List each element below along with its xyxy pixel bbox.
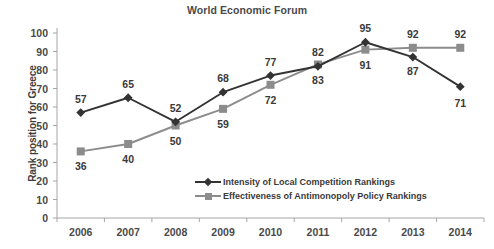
chart-container: World Economic Forum Rank position for G… (0, 0, 494, 249)
legend-label-series-1: Effectiveness of Antimonopoly Policy Ran… (223, 190, 427, 202)
data-point-label: 72 (265, 94, 277, 106)
data-point-label: 65 (122, 78, 134, 90)
data-point-label: 36 (75, 160, 87, 172)
data-point-label: 82 (312, 46, 324, 58)
data-point-label: 83 (312, 74, 324, 86)
data-point-label: 68 (217, 72, 229, 84)
chart-legend: Intensity of Local Competition Rankings … (195, 175, 427, 203)
legend-key-square-icon (195, 190, 221, 202)
data-point-label: 87 (407, 65, 419, 77)
data-point-label: 71 (454, 97, 466, 109)
data-point-label: 77 (265, 56, 277, 68)
data-point-label: 50 (170, 135, 182, 147)
legend-label-series-0: Intensity of Local Competition Rankings (223, 176, 395, 188)
data-point-label: 95 (360, 22, 372, 34)
data-point-label: 40 (122, 153, 134, 165)
legend-item-series-0[interactable]: Intensity of Local Competition Rankings (195, 175, 427, 189)
data-point-label: 52 (170, 102, 182, 114)
data-point-label: 59 (217, 118, 229, 130)
legend-item-series-1[interactable]: Effectiveness of Antimonopoly Policy Ran… (195, 189, 427, 203)
data-point-label: 91 (360, 59, 372, 71)
data-point-label: 57 (75, 93, 87, 105)
legend-key-diamond-icon (195, 176, 221, 188)
plot-area (0, 0, 494, 249)
data-point-label: 92 (407, 28, 419, 40)
data-point-label: 92 (454, 28, 466, 40)
